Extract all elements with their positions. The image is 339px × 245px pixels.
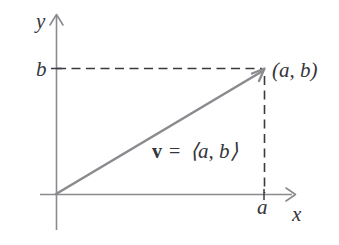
y-tick-label-b: b [36, 57, 47, 81]
vector-label-v: v [152, 140, 162, 162]
y-axis-label: y [34, 9, 46, 33]
vector-v-shaft [56, 72, 261, 194]
vector-label-components: ⟨a, b⟩ [190, 139, 238, 163]
x-axis-label: x [291, 202, 302, 226]
vector-label-equals: = [169, 140, 180, 162]
point-label-ab: (a, b) [272, 58, 318, 82]
vector-diagram-figure: y x b a (a, b) v = ⟨a, b⟩ [0, 0, 339, 245]
vector-diagram-canvas: y x b a (a, b) v = ⟨a, b⟩ [0, 0, 339, 245]
x-tick-label-a: a [257, 195, 268, 219]
